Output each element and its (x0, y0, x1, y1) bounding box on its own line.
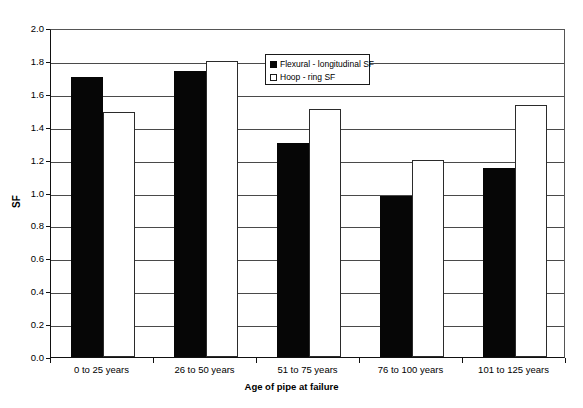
y-tick-label: 1.4 (14, 123, 44, 133)
x-tick-mark (256, 358, 257, 363)
bar-flexural (71, 77, 103, 357)
bar-hoop (515, 105, 547, 357)
y-tick-label: 0.2 (14, 320, 44, 330)
y-tick-mark (46, 292, 50, 293)
bar-flexural (380, 196, 412, 357)
y-tick-mark (46, 194, 50, 195)
x-tick-mark (359, 358, 360, 363)
chart-legend: Flexural - longitudinal SF Hoop - ring S… (265, 54, 370, 85)
legend-item-hoop: Hoop - ring SF (270, 71, 365, 83)
y-tick-mark (46, 62, 50, 63)
x-axis-title: Age of pipe at failure (0, 381, 583, 392)
bar-hoop (412, 160, 444, 357)
x-tick-label: 76 to 100 years (359, 364, 462, 375)
x-tick-mark (153, 358, 154, 363)
x-tick-label: 51 to 75 years (256, 364, 359, 375)
y-tick-label: 0.4 (14, 287, 44, 297)
legend-label-hoop: Hoop - ring SF (280, 73, 335, 82)
bar-hoop (103, 112, 135, 357)
chart-figure: SF 0.00.20.40.60.81.01.21.41.61.82.0 0 t… (0, 0, 583, 408)
y-tick-mark (46, 29, 50, 30)
y-tick-label: 0.6 (14, 254, 44, 264)
bar-hoop (206, 61, 238, 357)
legend-label-flexural: Flexural - longitudinal SF (280, 60, 374, 69)
x-tick-label: 0 to 25 years (50, 364, 153, 375)
y-tick-label: 1.8 (14, 57, 44, 67)
legend-item-flexural: Flexural - longitudinal SF (270, 58, 365, 70)
y-tick-label: 1.0 (14, 189, 44, 199)
y-tick-mark (46, 259, 50, 260)
y-tick-mark (46, 95, 50, 96)
bar-flexural (277, 143, 309, 357)
legend-swatch-black-icon (270, 61, 277, 68)
y-tick-label: 0.0 (14, 353, 44, 363)
gridline (51, 96, 564, 97)
legend-swatch-white-icon (270, 74, 277, 81)
x-tick-mark (462, 358, 463, 363)
y-tick-label: 1.2 (14, 156, 44, 166)
y-tick-mark (46, 226, 50, 227)
y-tick-label: 0.8 (14, 221, 44, 231)
y-tick-label: 2.0 (14, 24, 44, 34)
bar-flexural (483, 168, 515, 357)
y-tick-mark (46, 128, 50, 129)
y-tick-mark (46, 325, 50, 326)
x-tick-mark (50, 358, 51, 363)
x-tick-label: 26 to 50 years (153, 364, 256, 375)
bar-hoop (309, 109, 341, 357)
bar-flexural (174, 71, 206, 357)
x-tick-mark (565, 358, 566, 363)
y-tick-mark (46, 161, 50, 162)
y-tick-label: 1.6 (14, 90, 44, 100)
x-tick-label: 101 to 125 years (462, 364, 565, 375)
